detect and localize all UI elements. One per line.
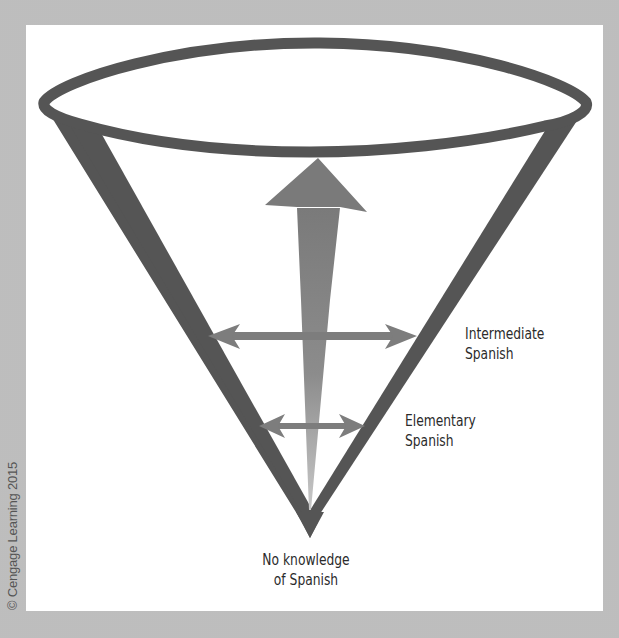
elementary-spanish-label: Elementary Spanish — [405, 411, 476, 451]
no-knowledge-label-line1: No knowledge — [240, 550, 371, 570]
cone-right-wall — [304, 110, 584, 520]
cone-left-wall — [62, 112, 318, 520]
cone-tip — [296, 512, 324, 538]
intermediate-spanish-label: Intermediate Spanish — [465, 324, 544, 364]
copyright-notice: © Cengage Learning 2015 — [5, 462, 20, 610]
cone-rim — [44, 43, 587, 152]
no-knowledge-label-line2: of Spanish — [240, 570, 371, 590]
elementary-label-line1: Elementary — [405, 411, 476, 431]
elementary-label-line2: Spanish — [405, 431, 476, 451]
intermediate-label-line1: Intermediate — [465, 324, 544, 344]
cone-diagram — [0, 0, 619, 638]
intermediate-label-line2: Spanish — [465, 344, 544, 364]
no-knowledge-label: No knowledge of Spanish — [240, 550, 371, 590]
growth-arrow-head — [265, 158, 367, 212]
growth-arrow-shaft — [297, 208, 340, 510]
cone-left-side — [46, 108, 318, 538]
